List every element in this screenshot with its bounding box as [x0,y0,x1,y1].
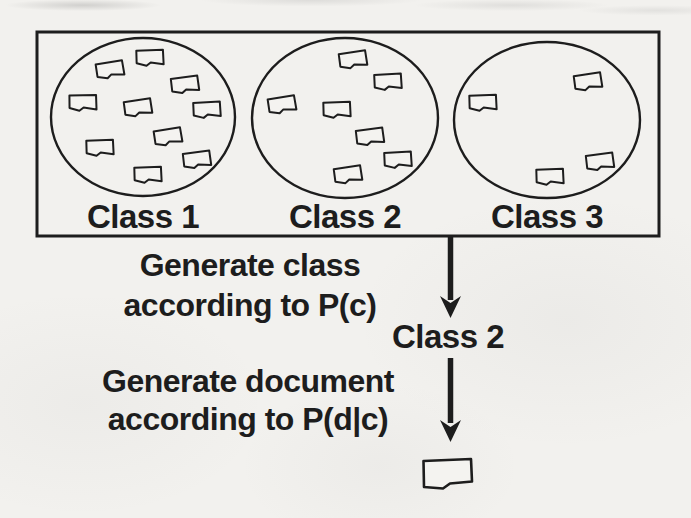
document-icon [267,95,296,114]
step-2-caption-line-2: according to P(d|c) [108,401,388,437]
generative-model-diagram: Class 1 Class 2 Class 3 Generate class a… [0,0,691,518]
class-2-label: Class 2 [289,198,401,235]
document-icon [134,165,163,183]
document-icon [356,128,385,146]
document-icon [153,127,182,146]
step-2-caption: Generate document according to P(d|c) [102,363,395,437]
document-icon [136,48,165,66]
generated-document-icon [424,459,473,489]
step-1-caption: Generate class according to P(c) [124,247,377,323]
document-icon [334,165,363,183]
document-icon [193,101,222,119]
step-2-caption-line-1: Generate document [102,363,395,399]
document-icon [95,60,124,79]
document-icon [171,76,200,94]
class-1-label: Class 1 [87,198,199,235]
document-icon [586,153,615,171]
document-icon [374,73,403,91]
document-icon [469,93,498,111]
document-icon [124,98,153,116]
document-icon [536,167,565,185]
step-1-caption-line-2: according to P(c) [124,287,377,323]
down-arrow-icon [440,237,461,318]
document-icon [339,50,368,68]
document-icon [68,93,97,112]
down-arrow-icon [440,358,461,442]
class-1-documents [68,48,221,183]
document-icon [86,138,115,156]
sampled-class-label: Class 2 [392,318,504,355]
document-icon [574,72,603,90]
document-icon [384,151,413,169]
scanned-page: Class 1 Class 2 Class 3 Generate class a… [0,0,691,518]
document-icon [183,151,212,169]
class-2-documents [267,50,412,183]
class-3-documents [469,72,615,185]
document-icon [323,100,352,118]
class-3-label: Class 3 [491,198,603,235]
step-1-caption-line-1: Generate class [140,247,361,283]
